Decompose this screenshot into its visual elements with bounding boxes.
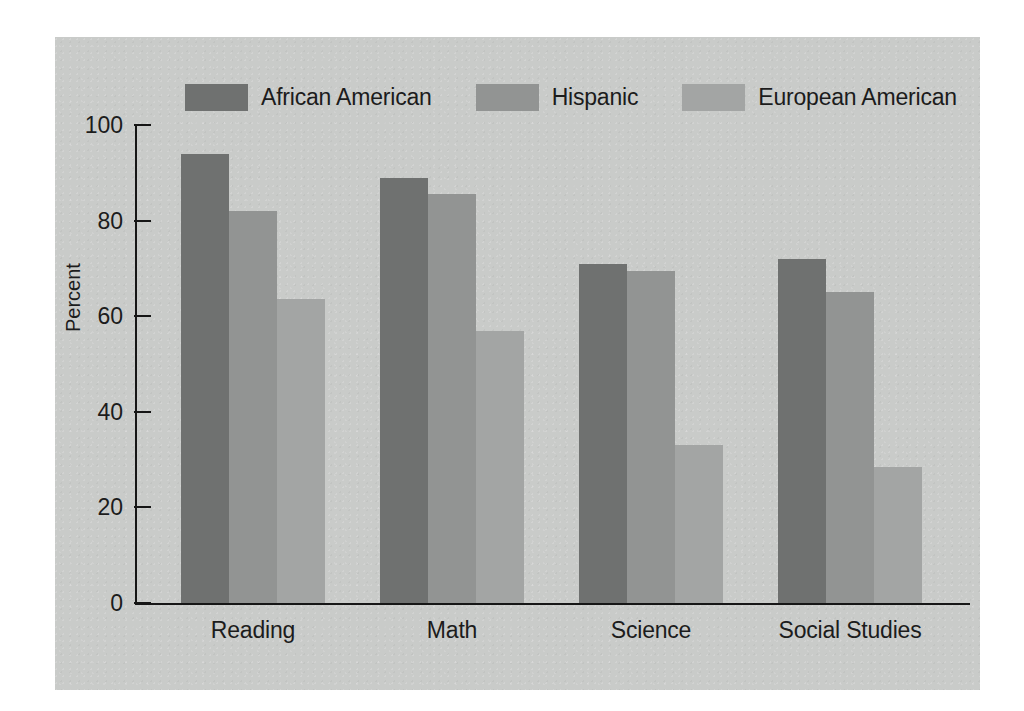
y-tick-label-40: 40 [53,398,123,425]
bar [675,445,723,603]
y-tick-20 [134,506,151,508]
bar [874,467,922,603]
chart-legend: African American Hispanic European Ameri… [185,82,957,112]
legend-swatch-african-american [185,84,248,111]
bar [277,299,325,603]
bar [229,211,277,603]
x-category-label: Reading [211,617,295,644]
legend-label-hispanic: Hispanic [552,84,639,111]
y-tick-0 [134,602,151,604]
legend-entry-african-american: African American [185,84,432,111]
y-axis-spine [135,125,137,603]
x-category-label: Math [427,617,477,644]
y-axis-title: Percent [62,263,85,332]
bar [826,292,874,603]
legend-swatch-european-american [682,84,745,111]
x-category-label: Science [611,617,691,644]
x-axis-spine [135,603,970,605]
x-category-label: Social Studies [779,617,922,644]
figure: African American Hispanic European Ameri… [0,0,1024,711]
y-tick-60 [134,315,151,317]
y-tick-label-80: 80 [53,207,123,234]
y-tick-100 [134,124,151,126]
legend-label-african-american: African American [261,84,432,111]
y-tick-40 [134,411,151,413]
bar [476,331,524,603]
bar [428,194,476,603]
bar [778,259,826,603]
plot-area: 020406080100 ReadingMathScienceSocial St… [135,125,970,603]
legend-swatch-hispanic [476,84,539,111]
y-tick-80 [134,220,151,222]
legend-entry-hispanic: Hispanic [476,84,639,111]
bar [579,264,627,603]
y-tick-label-0: 0 [53,590,123,617]
legend-label-european-american: European American [758,84,957,111]
y-tick-label-20: 20 [53,494,123,521]
y-tick-label-100: 100 [53,112,123,139]
bar [380,178,428,603]
bar [181,154,229,603]
bar [627,271,675,603]
legend-entry-european-american: European American [682,84,957,111]
